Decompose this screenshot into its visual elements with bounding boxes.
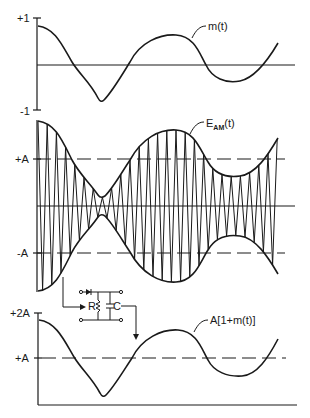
demod-curve-label: A[1+m(t)] [210, 314, 256, 326]
am-tick-plus-a-label: +A [15, 153, 29, 165]
message-curve-label: m(t) [208, 20, 228, 32]
demod-panel: +2A +A A[1+m(t)] [10, 307, 297, 405]
am-envelope-diagram: +1 -1 m(t) +A -A EAM(t) R [0, 0, 310, 418]
resistor-label: R [88, 300, 96, 312]
message-tick-plus1: +1 [17, 12, 30, 24]
demod-tick-2a-label: +2A [10, 307, 31, 319]
message-curve [38, 26, 278, 101]
am-panel: +A -A EAM(t) [15, 117, 295, 292]
output-arrow-head [133, 334, 139, 340]
terminal-in-top [79, 290, 82, 293]
message-panel: +1 -1 m(t) [17, 12, 295, 117]
message-label-leader [192, 26, 206, 38]
output-arrow-line [121, 306, 136, 334]
terminal-out-top [119, 290, 122, 293]
capacitor-label: C [113, 300, 121, 312]
diode-icon [86, 289, 91, 295]
am-tick-minus-a-label: -A [17, 247, 29, 259]
message-tick-minus1: -1 [20, 105, 30, 117]
terminal-out-bottom [119, 318, 122, 321]
resistor-icon [96, 292, 100, 320]
am-curve-label: EAM(t) [206, 117, 235, 131]
input-arrow-line [63, 277, 80, 307]
demod-tick-a-label: +A [15, 352, 29, 364]
terminal-in-bottom [79, 318, 82, 321]
envelope-detector-circuit: R C [63, 277, 139, 340]
demod-label-leader [194, 320, 208, 332]
input-arrow-head [80, 304, 86, 310]
am-label-leader [190, 122, 204, 134]
